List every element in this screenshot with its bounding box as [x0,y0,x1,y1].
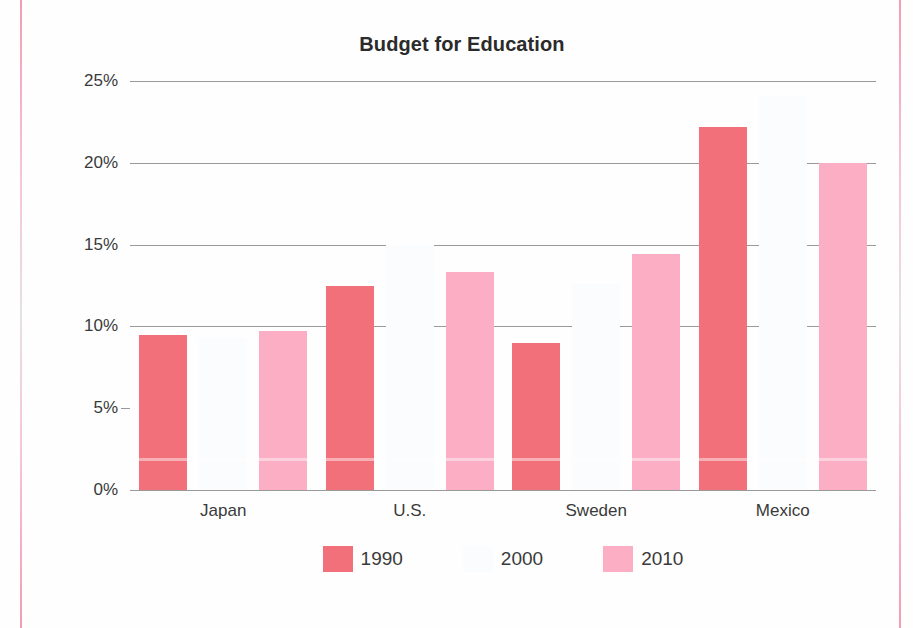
x-axis-tick-label: Sweden [503,501,690,521]
chart-title: Budget for Education [26,33,898,56]
bar-group-japan: Japan [130,81,317,490]
bar-1990-sweden [512,343,560,490]
legend-swatch-2000 [463,546,493,572]
bar-fill [386,245,434,490]
bars [503,81,690,490]
x-axis-tick-label: Japan [130,501,317,521]
page-margin-rule-right [899,0,901,628]
bar-fill [699,127,747,490]
bar-1990-mexico [699,127,747,490]
legend-label-2010: 2010 [641,548,683,570]
legend-item-2010: 2010 [603,546,683,572]
gridline-0 [130,490,876,491]
bar-2010-japan [259,331,307,490]
bar-group-mexico: Mexico [690,81,877,490]
plot-area: 0%5%10%15%20%25% JapanU.S.SwedenMexico [130,81,876,490]
bar-group-u-s: U.S. [317,81,504,490]
bar-2000-mexico [759,96,807,490]
x-axis-tick-label: U.S. [317,501,504,521]
bar-fill [199,338,247,490]
legend-item-2000: 2000 [463,546,543,572]
y-axis-tick-label: 25% [84,71,118,91]
bar-2000-japan [199,338,247,490]
bar-fill [259,331,307,490]
bar-fill [512,343,560,490]
bar-fill [572,284,620,490]
bar-2010-mexico [819,163,867,490]
chart-page: Budget for Education 0%5%10%15%20%25% Ja… [0,0,913,628]
bar-1990-u-s [326,286,374,491]
y-axis-tick-label: 20% [84,153,118,173]
y-axis-tick-label: 10% [84,316,118,336]
bar-1990-japan [139,335,187,490]
bar-2000-sweden [572,284,620,490]
y-axis-tick-label: 15% [84,235,118,255]
bar-fill [819,163,867,490]
bars [690,81,877,490]
legend-label-1990: 1990 [361,548,403,570]
page-margin-rule-left [20,0,22,628]
chart-legend: 199020002010 [130,546,876,572]
bar-groups: JapanU.S.SwedenMexico [130,81,876,490]
bar-fill [759,96,807,490]
bar-fill [326,286,374,491]
bar-fill [446,272,494,490]
bar-2010-u-s [446,272,494,490]
legend-item-1990: 1990 [323,546,403,572]
bar-chart-figure: Budget for Education 0%5%10%15%20%25% Ja… [26,0,898,628]
bar-fill [632,254,680,490]
legend-swatch-1990 [323,546,353,572]
bar-group-sweden: Sweden [503,81,690,490]
bar-2000-u-s [386,245,434,490]
y-tick-stub-5 [121,408,130,409]
y-axis-tick-label: 0% [93,480,118,500]
x-axis-tick-label: Mexico [690,501,877,521]
legend-swatch-2010 [603,546,633,572]
bars [130,81,317,490]
bar-2010-sweden [632,254,680,490]
y-axis-tick-label: 5% [93,398,118,418]
bar-fill [139,335,187,490]
bars [317,81,504,490]
legend-label-2000: 2000 [501,548,543,570]
